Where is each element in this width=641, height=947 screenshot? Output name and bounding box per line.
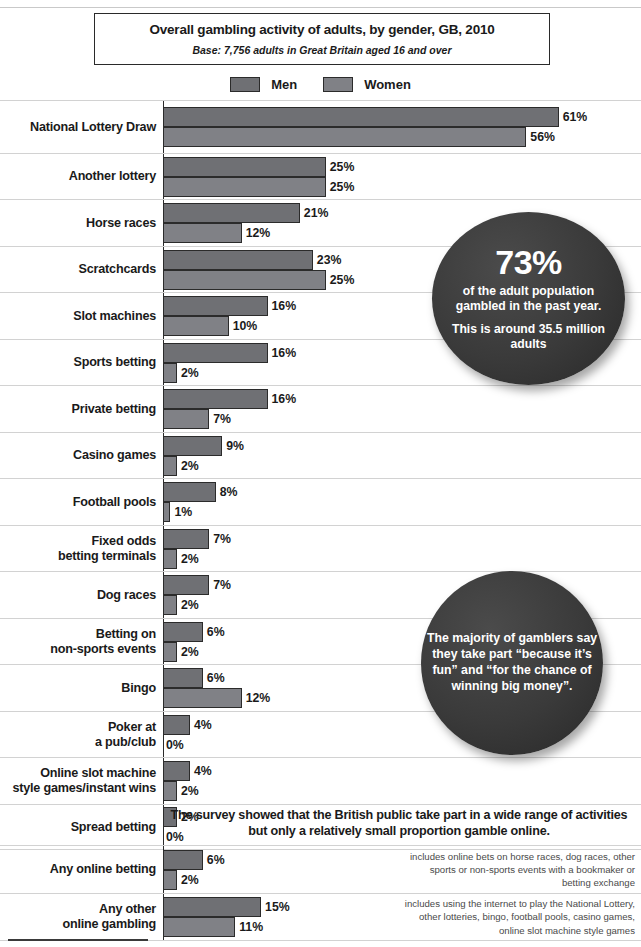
bar-men-value: 8% bbox=[220, 485, 238, 499]
bar-men bbox=[164, 482, 216, 502]
bar-women bbox=[164, 316, 229, 336]
bar-men-value: 61% bbox=[563, 110, 588, 124]
chart-legend: Men Women bbox=[0, 77, 641, 92]
bar-women-value: 2% bbox=[181, 552, 199, 566]
bar-men bbox=[164, 107, 559, 127]
callout-1-line2: This is around 35.5 million adults bbox=[432, 322, 625, 353]
table-row: Fixed oddsbetting terminals7%2% bbox=[0, 525, 641, 571]
bar-men-value: 25% bbox=[330, 160, 355, 174]
bar-men-value: 9% bbox=[226, 439, 244, 453]
bar-men bbox=[164, 389, 268, 409]
top-divider bbox=[0, 7, 641, 8]
category-label: Football pools bbox=[0, 479, 163, 525]
bar-women-value: 2% bbox=[181, 598, 199, 612]
bar-women-value: 25% bbox=[330, 273, 355, 287]
bottom-divider bbox=[8, 939, 148, 941]
bar-men bbox=[164, 668, 203, 688]
table-row: Casino games9%2% bbox=[0, 432, 641, 478]
bar-women-value: 12% bbox=[246, 226, 271, 240]
bar-women-value: 56% bbox=[530, 130, 555, 144]
bar-men bbox=[164, 436, 222, 456]
bar-group: 8%1% bbox=[163, 479, 641, 525]
callout-1-line1: of the adult population gambled in the p… bbox=[432, 284, 625, 315]
bar-women bbox=[164, 363, 177, 383]
bar-men-value: 15% bbox=[265, 900, 290, 914]
category-label: Sports betting bbox=[0, 340, 163, 385]
bar-men bbox=[164, 850, 203, 870]
callout-2-line1: The majority of gamblers say they take p… bbox=[421, 631, 603, 695]
bar-women-value: 12% bbox=[246, 691, 271, 705]
bar-women-value: 1% bbox=[174, 505, 192, 519]
table-row: Another lottery25%25% bbox=[0, 153, 641, 199]
category-label: Bingo bbox=[0, 665, 163, 711]
category-label: Any online betting bbox=[0, 846, 163, 893]
table-row: Private betting16%7% bbox=[0, 385, 641, 432]
bar-men-value: 6% bbox=[207, 625, 225, 639]
bar-women bbox=[164, 870, 177, 890]
bar-group: 25%25% bbox=[163, 154, 641, 199]
category-label: Horse races bbox=[0, 200, 163, 246]
bar-men-value: 7% bbox=[213, 578, 231, 592]
bar-men bbox=[164, 761, 190, 781]
table-row: Any online betting6%2%includes online be… bbox=[0, 845, 641, 893]
legend-swatch-men-icon bbox=[230, 77, 260, 92]
bar-men bbox=[164, 897, 261, 917]
bar-women bbox=[164, 688, 242, 708]
bar-women-value: 0% bbox=[166, 738, 184, 752]
bar-women bbox=[164, 781, 177, 801]
bar-group: 6%2% bbox=[163, 846, 641, 893]
category-label: Dog races bbox=[0, 572, 163, 618]
category-label: Scratchcards bbox=[0, 247, 163, 292]
bar-women-value: 10% bbox=[233, 319, 258, 333]
bar-men-value: 16% bbox=[272, 299, 297, 313]
bar-group: 4%2% bbox=[163, 758, 641, 804]
table-row: National Lottery Draw61%56% bbox=[0, 100, 641, 153]
table-row: Any otheronline gambling15%11%includes u… bbox=[0, 893, 641, 941]
bar-men bbox=[164, 622, 203, 642]
category-label: Online slot machinestyle games/instant w… bbox=[0, 758, 163, 804]
callout-1-headline: 73% bbox=[495, 245, 562, 279]
bar-women-value: 2% bbox=[181, 645, 199, 659]
bar-men-value: 21% bbox=[304, 206, 329, 220]
category-label: Slot machines bbox=[0, 293, 163, 339]
bar-women-value: 2% bbox=[181, 366, 199, 380]
bar-men bbox=[164, 157, 326, 177]
bar-group: 61%56% bbox=[163, 101, 641, 153]
bar-men-value: 16% bbox=[272, 346, 297, 360]
bar-men bbox=[164, 575, 209, 595]
category-label: Another lottery bbox=[0, 154, 163, 199]
legend-item-men: Men bbox=[230, 77, 297, 92]
online-bar-chart: Any online betting6%2%includes online be… bbox=[0, 845, 641, 941]
bar-men bbox=[164, 250, 313, 270]
bar-men-value: 4% bbox=[194, 764, 212, 778]
category-label: Spread betting bbox=[0, 805, 163, 849]
bar-women bbox=[164, 127, 526, 147]
bar-men bbox=[164, 296, 268, 316]
category-label: National Lottery Draw bbox=[0, 101, 163, 153]
bar-men-value: 7% bbox=[213, 532, 231, 546]
bar-women bbox=[164, 270, 326, 290]
bar-women-value: 25% bbox=[330, 180, 355, 194]
bar-women bbox=[164, 595, 177, 615]
bar-women-value: 11% bbox=[239, 920, 263, 934]
callout-73-percent: 73% of the adult population gambled in t… bbox=[432, 212, 625, 385]
chart-title-box: Overall gambling activity of adults, by … bbox=[94, 13, 550, 65]
category-label: Poker ata pub/club bbox=[0, 712, 163, 757]
bar-men bbox=[164, 715, 190, 735]
bar-group: 15%11% bbox=[163, 894, 641, 940]
bar-women bbox=[164, 502, 170, 522]
bar-men-value: 6% bbox=[207, 853, 225, 867]
legend-item-women: Women bbox=[323, 77, 411, 92]
chart-base-note: Base: 7,756 adults in Great Britain aged… bbox=[101, 44, 543, 57]
bar-women-value: 7% bbox=[213, 412, 231, 426]
bar-women bbox=[164, 917, 235, 937]
table-row: Online slot machinestyle games/instant w… bbox=[0, 757, 641, 804]
bar-women-value: 2% bbox=[181, 459, 199, 473]
category-label: Any otheronline gambling bbox=[0, 894, 163, 940]
legend-swatch-women-icon bbox=[323, 77, 353, 92]
bar-women bbox=[164, 642, 177, 662]
page-title: Overall gambling activity of adults, by … bbox=[101, 22, 543, 39]
online-section-note: The survey showed that the British publi… bbox=[163, 807, 635, 840]
bar-men bbox=[164, 203, 300, 223]
bar-women bbox=[164, 549, 177, 569]
